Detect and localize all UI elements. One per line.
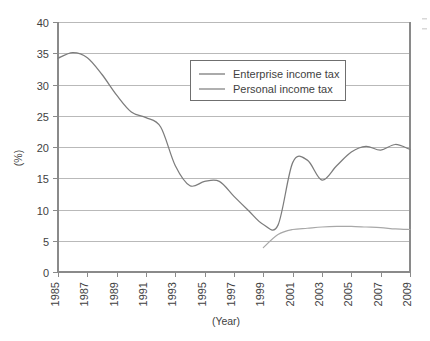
chart-container: 0510152025303540 19851987198919911993199… [0, 0, 430, 341]
legend-label-personal-income-tax: Personal income tax [233, 83, 333, 95]
x-tick-label-1999: 1999 [254, 282, 266, 306]
x-tick-label-1997: 1997 [225, 282, 237, 306]
x-tick-label-1993: 1993 [166, 282, 178, 306]
y-tick-label-0: 0 [43, 267, 49, 279]
x-axis-title: (Year) [212, 315, 240, 327]
x-tick-label-1989: 1989 [108, 282, 120, 306]
x-tick-label-2005: 2005 [342, 282, 354, 306]
y-axis-title: (%) [12, 150, 24, 166]
x-tick-label-2009: 2009 [401, 282, 413, 306]
y-tick-label-10: 10 [37, 205, 49, 217]
x-tick-label-2001: 2001 [284, 282, 296, 306]
y-tick-label-40: 40 [37, 17, 49, 29]
line-chart: 0510152025303540 19851987198919911993199… [0, 0, 430, 341]
x-tick-label-1991: 1991 [137, 282, 149, 306]
chart-background [0, 0, 430, 341]
y-tick-label-25: 25 [37, 111, 49, 123]
y-tick-label-35: 35 [37, 48, 49, 60]
y-tick-label-30: 30 [37, 80, 49, 92]
y-tick-label-5: 5 [43, 236, 49, 248]
chart-legend: Enterprise income tax Personal income ta… [191, 61, 346, 101]
y-tick-label-15: 15 [37, 173, 49, 185]
x-tick-label-2007: 2007 [372, 282, 384, 306]
x-tick-label-1995: 1995 [196, 282, 208, 306]
legend-label-enterprise-income-tax: Enterprise income tax [233, 68, 340, 80]
x-tick-label-1985: 1985 [49, 282, 61, 306]
x-tick-label-1987: 1987 [78, 282, 90, 306]
x-tick-label-2003: 2003 [313, 282, 325, 306]
y-tick-label-20: 20 [37, 142, 49, 154]
